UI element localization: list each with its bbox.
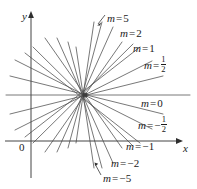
origin-label: 0: [19, 142, 25, 153]
slope-label-value: 1: [149, 42, 155, 54]
slope-label-variable: m: [133, 42, 141, 54]
slope-label-variable: m: [144, 59, 152, 71]
x-axis-arrow: [176, 138, 183, 144]
slope-label-value: 2: [134, 157, 140, 169]
slope-label-variable: m: [138, 119, 146, 131]
slope-label-variable: m: [126, 140, 134, 152]
common-point: [82, 92, 87, 97]
slope-label-m-neg-1: m=−1: [126, 141, 154, 152]
y-axis-arrow: [28, 11, 34, 18]
slope-label-variable: m: [107, 12, 115, 24]
slope-label-equals: =: [152, 59, 160, 71]
slope-label-m-0: m=0: [141, 98, 163, 109]
slope-label-m-5: m=5: [107, 13, 129, 24]
slope-label-variable: m: [111, 157, 119, 169]
slope-label-variable: m: [141, 97, 149, 109]
slope-label-m-neg-5: m=−5: [103, 173, 131, 184]
line-family: [6, 22, 190, 168]
slope-label-m-2: m=2: [120, 28, 142, 39]
slope-label-value: 5: [123, 12, 129, 24]
slope-family-figure: y x 0 m=5 m=2 m=1 m=12 m=0 m=−12 m=−1 m=…: [0, 0, 197, 189]
slope-label-m-neg-2: m=−2: [111, 158, 139, 169]
slope-label-value: 5: [126, 172, 132, 184]
fraction-one-half: 12: [161, 115, 166, 133]
slope-label-variable: m: [103, 172, 111, 184]
slope-label-value: 2: [136, 27, 142, 39]
slope-label-value: 0: [157, 97, 163, 109]
slope-label-m-one-half: m=12: [144, 55, 166, 73]
x-axis-label: x: [183, 143, 188, 154]
slope-label-minus-sign: −: [154, 119, 160, 131]
slope-label-variable: m: [120, 27, 128, 39]
plot-canvas: [0, 0, 197, 189]
slope-label-m-1: m=1: [133, 43, 155, 54]
fraction-denominator: 2: [161, 65, 166, 74]
slope-label-value: 1: [149, 140, 155, 152]
fraction-one-half: 12: [161, 55, 166, 73]
line-slope-neg0p7: [25, 53, 140, 143]
slope-label-m-neg-one-half: m=−12: [138, 115, 167, 133]
fraction-denominator: 2: [161, 125, 166, 134]
y-axis-label: y: [22, 11, 27, 22]
